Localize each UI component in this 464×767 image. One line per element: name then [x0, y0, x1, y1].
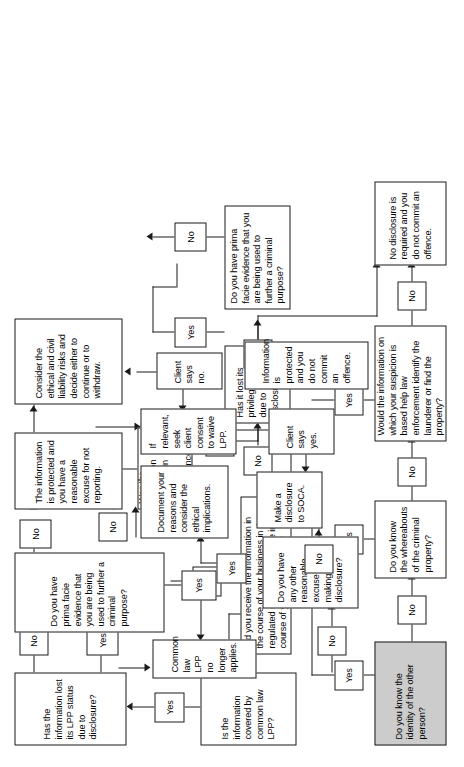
connector-coveredlpp-yes-v	[184, 706, 200, 707]
edge-label-covered-lpp-yes: Yes	[154, 692, 184, 722]
edge-label-identity-no: No	[397, 595, 426, 624]
node-consider-ethical[interactable]: Consider the ethical and civil liability…	[14, 318, 122, 404]
node-would-info-help[interactable]: Would the information on which your susp…	[374, 325, 446, 441]
edge-label-text: No	[406, 460, 417, 483]
node-label: Do you have prima facie evidence that yo…	[228, 211, 286, 303]
node-seek-client-consent[interactable]: If relevant, seek client consent to waiv…	[140, 408, 236, 454]
node-label: Client says no.	[172, 358, 207, 383]
connector-coveredlpp-yes-v2	[132, 706, 154, 707]
arrow-pflower-to-protected	[146, 233, 152, 241]
node-common-law-no-longer[interactable]: Common law LPP no longer applies.	[152, 639, 256, 678]
edge-label-text: Yes	[226, 556, 237, 580]
edge-label-text: No	[107, 515, 118, 538]
edge-label-text: Yes	[164, 695, 175, 719]
connector-whereabouts-no-b	[411, 441, 412, 458]
node-prima-facie-upper[interactable]: Do you have prima facie evidence that yo…	[14, 552, 164, 632]
node-label: Document your reasons and consider the e…	[155, 471, 213, 532]
connector-protected-down-v	[95, 426, 140, 427]
edge-label-lost-privileged-yes: Yes	[174, 317, 206, 347]
edge-label-text: No	[326, 629, 337, 652]
edge-label-prima-facie-lower-no: No	[174, 222, 206, 251]
node-start-identity[interactable]: Do you know the identity of the other pe…	[374, 641, 446, 745]
node-no-disclosure-required[interactable]: No disclosure is required and you do not…	[374, 181, 446, 265]
node-has-lost-lpp-status[interactable]: Has the information lost its LPP status …	[14, 672, 126, 745]
node-label: Do you know the whereabouts of the crimi…	[387, 506, 433, 572]
edge-label-covered-lpp-no: No	[317, 626, 346, 655]
node-label: Do you have prima facie evidence that yo…	[48, 558, 129, 626]
connector-haslostlpp-yes-h	[100, 654, 101, 672]
connector-coveredlpp-no-a	[331, 654, 332, 672]
connector-identity-yes-v2	[311, 674, 334, 675]
node-label: The information is protected and you hav…	[33, 438, 103, 503]
connector-coveredlpp-no-b	[331, 608, 332, 626]
connector-privcirc-yes-v2	[233, 440, 258, 441]
node-label: Do you know the identity of the other pe…	[393, 647, 428, 739]
node-make-disclosure-soca[interactable]: Make a disclosure to SOCA.	[256, 471, 322, 528]
edge-label-text: No	[185, 225, 196, 248]
connector-wouldhelp-no-b	[411, 266, 412, 283]
connector-haslostlpp-yes-v	[118, 667, 145, 668]
flowchart-canvas: Do you know the identity of the other pe…	[0, 0, 464, 767]
rotated-canvas-wrapper: Do you know the identity of the other pe…	[0, 0, 464, 767]
connector-haslost-yes-v	[206, 331, 224, 332]
edge-label-privileged-no: No	[98, 512, 127, 541]
node-label: Make a disclosure to SOCA.	[272, 477, 307, 522]
node-information-protected-excuse[interactable]: The information is protected and you hav…	[14, 432, 122, 509]
edge-label-would-help-yes: Yes	[334, 385, 363, 415]
node-covered-by-lpp[interactable]: Is the information covered by common law…	[200, 672, 296, 745]
node-client-says-no[interactable]: Client says no.	[156, 352, 222, 389]
node-label: Would the information on which your susp…	[375, 331, 445, 435]
connector-pflower-no-v	[206, 236, 224, 237]
connector-haslost-yes-v2	[152, 331, 174, 332]
node-label: If relevant, seek client consent to waiv…	[147, 414, 228, 448]
connector-haslost-yes-v3	[152, 286, 176, 287]
edge-label-whereabouts-no: No	[397, 457, 426, 486]
edge-label-text: No	[252, 449, 263, 472]
node-label: Common law LPP no longer applies.	[169, 645, 239, 672]
connector-haslost-no-b	[257, 324, 258, 340]
node-label: Is the information covered by common law…	[219, 678, 277, 739]
connector-identity-no-a	[411, 623, 412, 641]
connector-receive-no-c	[376, 266, 377, 316]
connector-haslost-yes-h2	[176, 263, 177, 287]
node-label: No disclosure is required and you do not…	[387, 187, 433, 259]
edge-label-text: No	[30, 522, 41, 545]
edge-label-other-excuse-yes: Yes	[216, 553, 246, 583]
edge-label-prima-facie-upper-no: No	[19, 519, 51, 548]
connector-pflower-no-v2	[152, 236, 174, 237]
edge-label-text: Yes	[343, 388, 354, 412]
node-document-reasons[interactable]: Document your reasons and consider the e…	[140, 465, 228, 538]
arrow-clientno-to-consider	[124, 368, 130, 376]
arrow-protected-to-consider	[29, 405, 37, 411]
arrow-haslost-no	[253, 319, 261, 325]
arrow-coveredlpp-to-haslostlpp	[126, 703, 132, 711]
connector-identity-no-b	[411, 578, 412, 596]
edge-label-prima-facie-upper-yes: Yes	[181, 570, 216, 600]
connector-pfupper-yes-v	[163, 584, 181, 585]
node-label: Client says yes.	[284, 414, 319, 448]
edge-label-other-excuse-no: No	[304, 544, 333, 573]
node-prima-facie-lower[interactable]: Do you have prima facie evidence that yo…	[224, 205, 290, 309]
connector-whereabouts-no-a	[411, 485, 412, 502]
node-information-protected-no-offence[interactable]: Information is protected and you do not …	[244, 341, 368, 389]
node-whereabouts[interactable]: Do you know the whereabouts of the crimi…	[374, 500, 446, 578]
node-client-says-yes[interactable]: Client says yes.	[268, 408, 334, 454]
connector-into-privcirc-h	[135, 510, 136, 537]
edge-label-text: No	[313, 547, 324, 570]
connector-haslost-yes-h	[152, 286, 153, 332]
node-label: Information is protected and you do not …	[260, 347, 353, 383]
arrow-haslostlpp-yes	[144, 664, 150, 672]
connector-receive-no-v	[257, 315, 377, 316]
edge-label-identity-yes: Yes	[334, 660, 363, 690]
connector-excuse-yes-h2	[200, 539, 201, 563]
connector-wouldhelp-yes-v2	[311, 399, 334, 400]
connector-commonlaw-out-h	[228, 613, 229, 639]
edge-label-would-help-no: No	[397, 281, 426, 310]
node-label: Has the information lost its LPP status …	[41, 678, 99, 739]
edge-label-text: No	[406, 284, 417, 307]
edge-label-text: Yes	[185, 320, 196, 344]
arrow-excuse-no-to-soca	[314, 529, 322, 535]
connector-wouldhelp-no-a	[411, 310, 412, 327]
edge-label-text: Yes	[343, 663, 354, 687]
node-label: Consider the ethical and civil liability…	[33, 324, 103, 398]
